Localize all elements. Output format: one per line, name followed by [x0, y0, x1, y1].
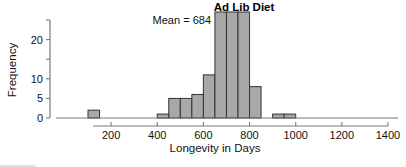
histogram-bar: [88, 110, 100, 118]
x-tick-label: 1000: [283, 129, 307, 141]
chart-title: Ad Lib Diet: [214, 1, 275, 13]
y-axis-title: Frequency: [6, 43, 18, 98]
histogram-bar: [203, 75, 215, 118]
x-tick-label: 600: [194, 129, 212, 141]
x-tick-label: 1400: [376, 129, 400, 141]
y-tick-label: 5: [37, 92, 43, 104]
histogram-bar: [215, 12, 227, 118]
x-axis-title: Longevity in Days: [170, 142, 261, 154]
mean-annotation: Mean = 684: [153, 14, 211, 26]
histogram-bar: [169, 98, 181, 118]
bars-group: [88, 12, 296, 118]
histogram-bar: [250, 87, 262, 118]
x-tick-label: 800: [240, 129, 258, 141]
histogram-bar: [238, 12, 250, 118]
x-tick-label: 1200: [330, 129, 354, 141]
x-tick-label: 400: [148, 129, 166, 141]
histogram-bar: [226, 12, 238, 118]
y-tick-label: 20: [31, 34, 43, 46]
histogram-bar: [192, 94, 204, 118]
y-tick-label: 0: [37, 112, 43, 124]
x-tick-label: 200: [102, 129, 120, 141]
y-tick-label: 10: [31, 73, 43, 85]
histogram-bar: [180, 98, 192, 118]
histogram-chart: Ad Lib Diet Frequency Longevity in Days …: [0, 0, 406, 167]
chart-canvas: Ad Lib Diet Frequency Longevity in Days …: [0, 0, 406, 167]
